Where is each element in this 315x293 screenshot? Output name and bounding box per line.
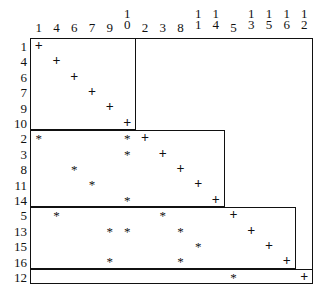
row-header-label: 1 [0,39,27,54]
cell-mark-star: * [156,209,169,222]
cell-mark-plus: + [227,208,240,221]
cell-mark-plus: + [85,85,98,98]
cell-mark-plus: + [32,39,45,52]
cell-mark-plus: + [262,239,275,252]
column-header-label: 2 [136,22,154,33]
row-header-label: 15 [0,239,27,254]
row-header-label: 3 [0,147,27,162]
block-4 [30,269,313,284]
cell-mark-plus: + [298,270,311,283]
cell-mark-plus: + [209,193,222,206]
column-header-label: 12 [296,8,314,30]
cell-mark-star: * [174,225,187,238]
cell-mark-star: * [121,132,134,145]
row-header-label: 7 [0,85,27,100]
cell-mark-plus: + [192,177,205,190]
row-header-label: 14 [0,193,27,208]
cell-mark-star: * [174,255,187,268]
row-header-label: 2 [0,131,27,146]
cell-mark-star: * [68,163,81,176]
row-header-label: 8 [0,162,27,177]
cell-mark-plus: + [103,100,116,113]
row-header-label: 5 [0,208,27,223]
column-header-label: 8 [172,22,190,33]
column-header-label: 6 [65,22,83,33]
row-header-label: 13 [0,224,27,239]
cell-mark-star: * [85,178,98,191]
cell-mark-star: * [192,240,205,253]
matrix-diagram: 1467910238111451315161214679102381114513… [0,0,315,293]
cell-mark-plus: + [139,131,152,144]
cell-mark-star: * [103,225,116,238]
row-header-label: 4 [0,54,27,69]
column-header-label: 4 [48,22,66,33]
cell-mark-star: * [121,148,134,161]
column-header-label: 9 [101,22,119,33]
column-header-label: 5 [225,22,243,33]
row-header-label: 9 [0,101,27,116]
column-header-label: 7 [83,22,101,33]
column-header-label: 15 [260,8,278,30]
cell-mark-plus: + [50,54,63,67]
cell-mark-plus: + [245,224,258,237]
row-header-label: 10 [0,116,27,131]
column-header-label: 16 [278,8,296,30]
column-header-label: 14 [207,8,225,30]
cell-mark-plus: + [121,116,134,129]
cell-mark-plus: + [156,147,169,160]
column-header-label: 13 [242,8,260,30]
row-header-label: 12 [0,270,27,285]
row-header-label: 16 [0,255,27,270]
row-header-label: 6 [0,70,27,85]
column-header-label: 1 [30,22,48,33]
cell-mark-star: * [121,225,134,238]
cell-mark-star: * [103,255,116,268]
row-header-label: 11 [0,178,27,193]
cell-mark-star: * [32,132,45,145]
cell-mark-plus: + [174,162,187,175]
column-header-label: 11 [189,8,207,30]
cell-mark-plus: + [280,254,293,267]
cell-mark-star: * [50,209,63,222]
cell-mark-star: * [121,194,134,207]
cell-mark-star: * [227,271,240,284]
column-header-label: 10 [119,8,137,30]
cell-mark-plus: + [68,70,81,83]
column-header-label: 3 [154,22,172,33]
